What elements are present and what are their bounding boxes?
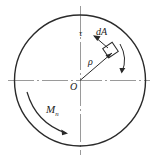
area-element-label: dA: [96, 27, 107, 37]
torque-label: Mn: [46, 104, 59, 118]
torque-subscript: n: [55, 110, 58, 117]
torque-symbol: M: [46, 103, 55, 115]
torsion-cross-section-figure: τ dA ρ O Mn: [0, 0, 157, 161]
tangent-arc-arrowhead: [119, 68, 125, 74]
torque-arc-arrowhead: [61, 129, 68, 135]
shear-stress-label: τ: [79, 29, 82, 38]
radius-label: ρ: [88, 57, 93, 67]
area-element-square: [103, 42, 119, 57]
center-point-label: O: [70, 82, 77, 92]
diagram-canvas: [0, 0, 157, 161]
tangent-arc: [120, 44, 125, 72]
